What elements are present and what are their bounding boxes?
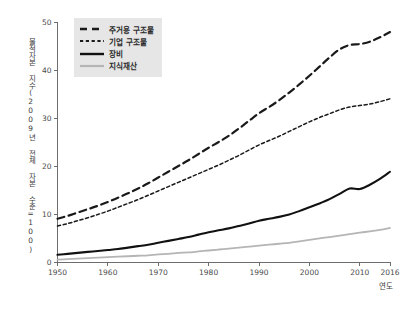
x-tick-label: 2016 xyxy=(380,268,399,277)
y-tick-label: 0 xyxy=(47,258,52,267)
y-tick-label: 10 xyxy=(42,210,52,219)
legend-item-business-structures[interactable]: 기업 구조물 xyxy=(80,35,156,47)
long-dash-swatch-icon xyxy=(80,24,104,34)
legend-label-equipment: 장비 xyxy=(109,48,123,59)
solid-black-swatch-icon xyxy=(80,49,104,59)
x-tick-label: 2000 xyxy=(300,268,319,277)
series-line-2 xyxy=(58,172,391,255)
x-tick-label: 1950 xyxy=(48,268,67,277)
series-line-1 xyxy=(58,99,391,226)
legend-label-residential-structures: 주거용 구조물 xyxy=(109,24,154,35)
legend-label-business-structures: 기업 구조물 xyxy=(109,36,147,47)
chart-container: 0102030405019501960197019801990200020102… xyxy=(0,0,412,309)
y-tick-label: 30 xyxy=(42,114,52,123)
y-tick-label: 20 xyxy=(42,162,52,171)
legend-item-residential-structures[interactable]: 주거용 구조물 xyxy=(80,23,156,35)
x-axis-caption: 연도 xyxy=(379,282,393,291)
x-tick-label: 1980 xyxy=(199,268,218,277)
x-tick-label: 1990 xyxy=(249,268,268,277)
legend-item-equipment[interactable]: 장비 xyxy=(80,48,156,60)
short-dash-swatch-icon xyxy=(80,36,104,46)
chart-legend: 주거용 구조물 기업 구조물 장비 지식 xyxy=(74,18,162,77)
legend-label-intellectual-property: 지식재산 xyxy=(109,60,137,71)
y-tick-label: 40 xyxy=(42,66,52,75)
solid-gray-swatch-icon xyxy=(80,61,104,71)
legend-item-intellectual-property[interactable]: 지식재산 xyxy=(80,60,156,72)
x-tick-label: 2010 xyxy=(350,268,369,277)
x-tick-label: 1960 xyxy=(98,268,117,277)
axis-captions: 연도 xyxy=(379,282,393,291)
y-tick-label: 50 xyxy=(42,18,52,27)
series-line-3 xyxy=(58,228,391,260)
line-chart: 0102030405019501960197019801990200020102… xyxy=(0,0,412,309)
x-tick-label: 1970 xyxy=(149,268,168,277)
